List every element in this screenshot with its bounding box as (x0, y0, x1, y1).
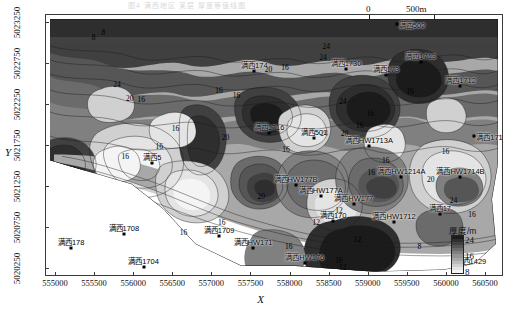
well-label: 满西HW1713A (345, 134, 393, 145)
well-label: 满西HW1712 (372, 210, 415, 221)
well-marker[interactable]: 满西1730 (344, 67, 348, 71)
x-tick-label: 559000 (355, 278, 381, 288)
well-label: 满西178 (58, 236, 85, 247)
well-label: 满西173 (373, 63, 400, 74)
well-marker[interactable]: 满西HW171 (251, 246, 255, 250)
x-tick-label: 558000 (277, 278, 303, 288)
x-tick-label: 560000 (433, 278, 459, 288)
well-marker[interactable]: 满西178 (69, 246, 73, 250)
well-label: 满西1712 (445, 74, 476, 85)
well-marker[interactable]: 满西5 (150, 161, 154, 165)
well-label: 满西1730 (331, 57, 362, 68)
well-marker[interactable]: 满西1716 (267, 131, 271, 135)
well-marker[interactable]: 满西174 (252, 69, 256, 73)
well-label: 满西1708 (109, 222, 140, 233)
legend-colorbar (451, 235, 464, 274)
thickness-colorbar-legend: 厚度/m 24168 (449, 224, 501, 274)
well-label: 满西HW176 (285, 251, 324, 262)
legend-color-band (452, 270, 463, 273)
well-label: 满西1704 (128, 255, 159, 266)
x-axis-tick-labels: 5550005555005560005565005570005575005580… (45, 278, 503, 292)
x-tick-label: 557500 (238, 278, 264, 288)
x-tick-label: 556500 (160, 278, 186, 288)
well-label: 满西HW177B (274, 173, 318, 184)
well-marker[interactable]: 满西1712 (458, 84, 462, 88)
x-tick-label: 555000 (42, 278, 68, 288)
well-marker[interactable]: 满西HW1712 (392, 220, 396, 224)
x-tick-label: 557000 (199, 278, 225, 288)
scale-bar-left-cap (369, 15, 370, 20)
scale-bar-end-label: 500m (406, 4, 427, 14)
legend-tick-labels: 24168 (465, 233, 499, 273)
x-tick-label: 555500 (81, 278, 107, 288)
well-marker[interactable]: 满西HW177 (352, 202, 356, 206)
y-axis-tick-labels: 5020250502075050212505021750502225050227… (0, 14, 34, 276)
x-tick-label: 558500 (316, 278, 342, 288)
x-tick-label: 560500 (472, 278, 498, 288)
isopach-map-figure: 图4 满西地区 某层 厚度等值线图 (0, 0, 521, 314)
well-label: 满西17 (429, 202, 451, 213)
well-label: 满西174 (241, 59, 268, 70)
y-axis-title: Y (1, 146, 15, 160)
y-tick-label: 5023250 (12, 0, 23, 52)
well-label: 满西5 (143, 151, 161, 162)
well-label: 满西1716 (254, 121, 285, 132)
figure-caption: 图4 满西地区 某层 厚度等值线图 (128, 0, 388, 9)
well-label: 满西HW171 (234, 236, 273, 247)
scale-bar-line (369, 19, 435, 20)
well-marker[interactable]: 满西1708 (122, 232, 126, 236)
well-marker[interactable]: 满西170 (331, 219, 335, 223)
well-marker[interactable]: 满西HW177B (294, 183, 298, 187)
scale-bar-right-cap (434, 15, 435, 20)
legend-tick-label: 8 (465, 267, 470, 277)
well-marker[interactable]: 满西HW1214A (399, 175, 403, 179)
map-plot-area: 8824201616162016242424161616201624201616… (45, 14, 503, 276)
well-label: 满西1713 (405, 50, 436, 61)
well-marker[interactable]: 满西HW1714B (458, 175, 462, 179)
x-tick-label: 559500 (394, 278, 420, 288)
x-tick-label: 556000 (120, 278, 146, 288)
well-marker[interactable]: 满西1715 (472, 134, 476, 138)
well-marker[interactable]: 满西1709 (217, 234, 221, 238)
well-marker[interactable]: 满西173 (384, 73, 388, 77)
scale-bar: 0 500m (364, 4, 450, 30)
well-marker[interactable]: 满西501 (312, 136, 316, 140)
well-label: 满西HW1214A (377, 165, 425, 176)
well-marker[interactable]: 满西HW176 (303, 261, 307, 265)
well-label: 满西1709 (204, 224, 235, 235)
well-label: 满西HW177 (334, 192, 373, 203)
legend-tick-label: 16 (465, 251, 474, 261)
well-label: 满西HW1714B (436, 165, 484, 176)
well-marker[interactable]: 满西1704 (142, 265, 146, 269)
well-label: 满西1715 (476, 131, 503, 142)
x-axis-title: X (0, 293, 521, 305)
well-marker[interactable]: 满西HW1713A (367, 144, 371, 148)
scale-bar-start-label: 0 (366, 4, 371, 14)
well-label: 满西170 (320, 209, 347, 220)
well-marker[interactable]: 满西17 (438, 212, 442, 216)
well-marker[interactable]: 满西1713 (419, 60, 423, 64)
well-label: 满西501 (301, 126, 328, 137)
well-marker[interactable]: 满西HW177A (319, 194, 323, 198)
legend-tick-label: 24 (465, 235, 474, 245)
well-layer: 满西502满西1713满西1712满西173满西1715满西HW1713A满西1… (46, 15, 502, 275)
